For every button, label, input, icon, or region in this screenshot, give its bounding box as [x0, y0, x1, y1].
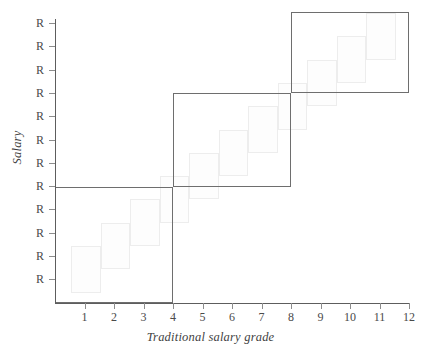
broadband-box — [173, 93, 291, 186]
y-tick-mark — [49, 233, 55, 234]
y-tick-label: R — [14, 40, 44, 52]
y-tick-mark — [49, 46, 55, 47]
x-tick-label: 6 — [220, 311, 244, 324]
x-tick-label: 5 — [191, 311, 215, 324]
x-tick-mark — [350, 303, 351, 309]
x-tick-mark — [262, 303, 263, 309]
x-tick-mark — [321, 303, 322, 309]
x-tick-label: 4 — [161, 311, 185, 324]
y-tick-mark — [49, 186, 55, 187]
x-tick-label: 7 — [250, 311, 274, 324]
x-tick-mark — [173, 303, 174, 309]
x-tick-mark — [409, 303, 410, 309]
y-tick-mark — [49, 256, 55, 257]
y-tick-label: R — [14, 250, 44, 262]
x-tick-mark — [144, 303, 145, 309]
y-tick-label: R — [14, 134, 44, 146]
salary-broadbanding-chart: Salary RRRRRRRRRRRR 123456789101112 Trad… — [0, 0, 421, 358]
y-tick-label: R — [14, 227, 44, 239]
broadband-box — [291, 12, 409, 93]
x-tick-label: 11 — [368, 311, 392, 324]
y-tick-mark — [49, 116, 55, 117]
x-tick-mark — [291, 303, 292, 309]
y-tick-mark — [49, 23, 55, 24]
y-tick-mark — [49, 209, 55, 210]
x-tick-mark — [203, 303, 204, 309]
y-tick-mark — [49, 140, 55, 141]
y-axis-line — [55, 19, 56, 304]
x-tick-mark — [380, 303, 381, 309]
y-tick-label: R — [14, 180, 44, 192]
y-tick-label: R — [14, 273, 44, 285]
x-tick-label: 1 — [73, 311, 97, 324]
y-tick-label: R — [14, 157, 44, 169]
y-tick-label: R — [14, 203, 44, 215]
x-tick-label: 3 — [132, 311, 156, 324]
x-tick-label: 8 — [279, 311, 303, 324]
y-tick-mark — [49, 163, 55, 164]
y-tick-mark — [49, 70, 55, 71]
x-tick-label: 12 — [397, 311, 421, 324]
x-tick-mark — [85, 303, 86, 309]
y-tick-label: R — [14, 110, 44, 122]
y-tick-label: R — [14, 64, 44, 76]
x-tick-mark — [114, 303, 115, 309]
x-tick-label: 9 — [309, 311, 333, 324]
x-axis-label: Traditional salary grade — [0, 330, 421, 345]
y-tick-mark — [49, 93, 55, 94]
y-tick-mark — [49, 279, 55, 280]
x-tick-label: 2 — [102, 311, 126, 324]
x-tick-label: 10 — [338, 311, 362, 324]
y-tick-label: R — [14, 87, 44, 99]
y-tick-label: R — [14, 17, 44, 29]
x-tick-mark — [232, 303, 233, 309]
broadband-box — [55, 187, 173, 303]
